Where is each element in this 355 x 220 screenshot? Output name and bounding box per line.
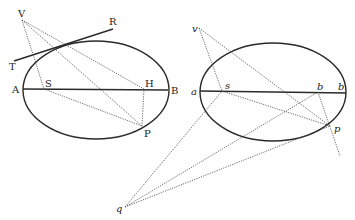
left-diagram: V R T A S H B P <box>9 8 178 139</box>
label-s: s <box>225 80 230 91</box>
label-A: A <box>11 84 20 95</box>
line-VH <box>22 20 144 89</box>
line-HP <box>142 89 144 126</box>
tangent-line-TR <box>14 29 113 61</box>
label-v: v <box>192 23 198 34</box>
label-T: T <box>9 61 16 72</box>
label-P: P <box>144 128 151 139</box>
line-sp <box>222 91 330 126</box>
right-diagram: v a s b b p q <box>116 23 346 214</box>
label-q: q <box>116 203 122 214</box>
label-S: S <box>45 78 52 89</box>
label-p: p <box>334 123 341 134</box>
ellipse-geometry-figure: V R T A S H B P v a s b b p q <box>0 0 355 220</box>
line-VP <box>22 20 142 126</box>
line-qh <box>125 92 318 207</box>
label-b: b <box>338 81 344 92</box>
label-R: R <box>109 16 117 27</box>
line-SP <box>44 89 142 126</box>
major-axis-ab <box>200 91 346 93</box>
label-a: a <box>191 86 197 97</box>
label-B: B <box>171 85 178 96</box>
line-qp <box>125 126 330 207</box>
label-H: H <box>145 78 154 89</box>
label-h: b <box>317 81 323 92</box>
line-qs <box>125 91 222 207</box>
label-V: V <box>17 8 26 19</box>
